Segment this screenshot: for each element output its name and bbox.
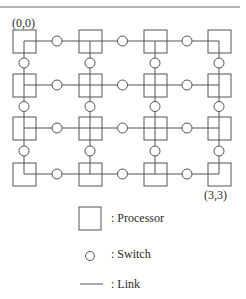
switches (19, 36, 224, 179)
switch-icon (150, 146, 160, 156)
switch-icon (150, 58, 160, 68)
legend-processor-icon (79, 207, 101, 230)
links (24, 41, 219, 174)
switch-icon (118, 123, 128, 133)
switch-icon (118, 169, 128, 179)
legend-link-label: : Link (111, 277, 140, 291)
switch-icon (182, 169, 192, 179)
switch-icon (118, 36, 128, 46)
legend-switch-icon (86, 252, 95, 261)
switch-icon (85, 58, 95, 68)
switch-icon (85, 146, 95, 156)
switch-icon (150, 102, 160, 112)
switch-icon (85, 102, 95, 112)
mesh-diagram: (0,0) (3,3) : Processor : Switch : Link (0, 0, 246, 299)
switch-icon (19, 146, 29, 156)
switch-icon (19, 58, 29, 68)
processors (13, 30, 231, 186)
corner-label-end: (3,3) (204, 188, 227, 202)
switch-icon (52, 169, 62, 179)
corner-label-origin: (0,0) (12, 16, 35, 30)
switch-icon (214, 146, 224, 156)
switch-icon (182, 36, 192, 46)
switch-icon (19, 102, 29, 112)
switch-icon (214, 102, 224, 112)
switch-icon (182, 123, 192, 133)
switch-icon (182, 80, 192, 90)
switch-icon (52, 36, 62, 46)
switch-icon (214, 58, 224, 68)
legend-processor-label: : Processor (111, 211, 164, 225)
legend: : Processor : Switch : Link (79, 207, 164, 291)
switch-icon (118, 80, 128, 90)
switch-icon (52, 80, 62, 90)
switch-icon (52, 123, 62, 133)
legend-switch-label: : Switch (111, 247, 151, 261)
